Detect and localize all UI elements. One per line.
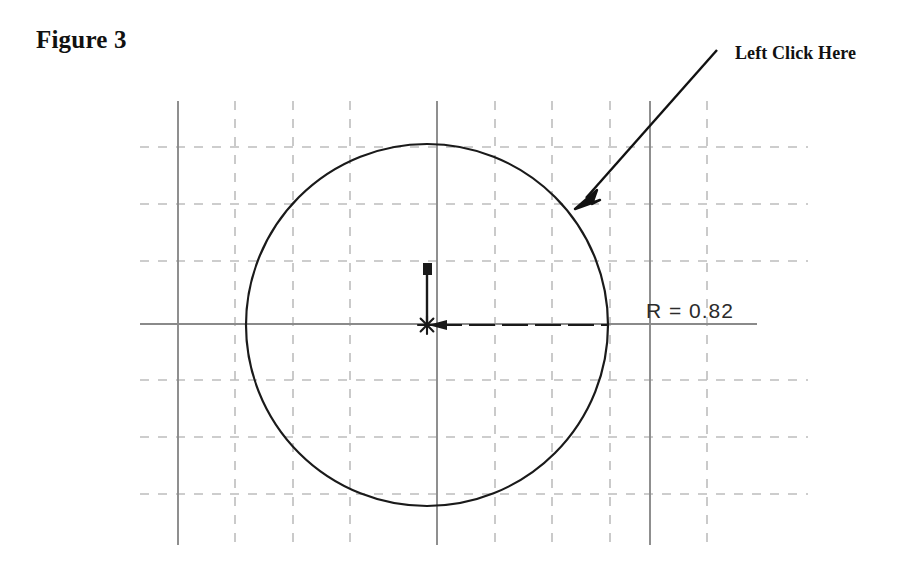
callout-instruction-label: Left Click Here <box>735 43 856 64</box>
radius-dimension-label[interactable]: R = 0.82 <box>646 299 734 323</box>
centerline-handle-square[interactable] <box>423 263 432 275</box>
grid-major-verticals <box>178 101 650 545</box>
center-point-asterisk-icon[interactable] <box>418 316 436 334</box>
radius-dimension-line[interactable] <box>428 320 608 330</box>
callout-arrowhead <box>575 190 600 209</box>
callout-arrow-icon <box>575 50 717 209</box>
cad-sketch-figure <box>0 0 924 579</box>
page-title: Figure 3 <box>36 26 127 54</box>
grid-minor-verticals <box>235 101 707 545</box>
